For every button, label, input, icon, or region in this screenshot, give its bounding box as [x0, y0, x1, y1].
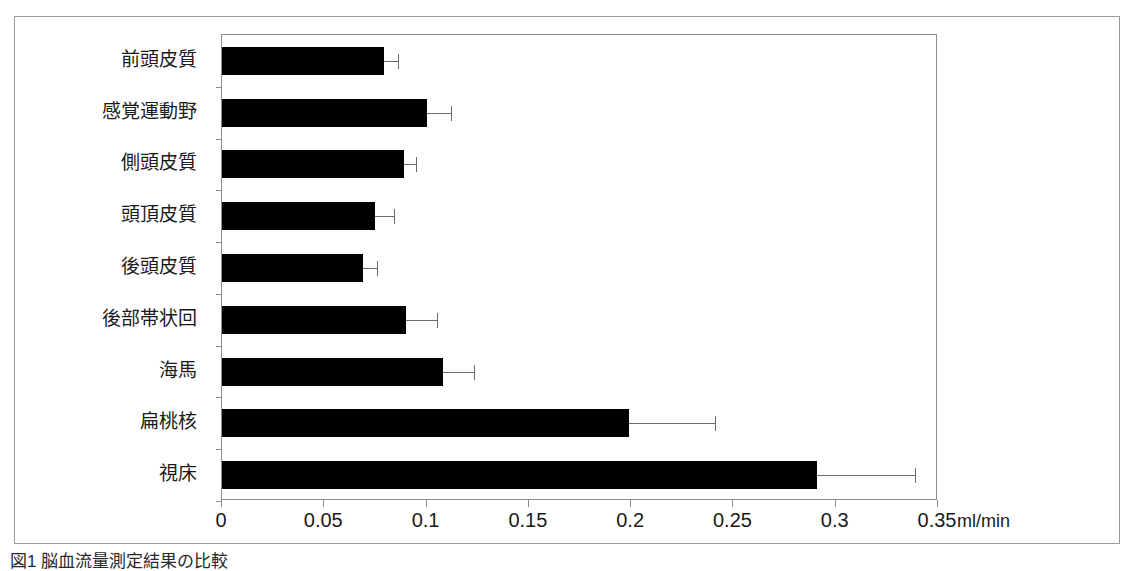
bar	[222, 99, 427, 127]
category-label: 側頭皮質	[121, 153, 197, 172]
plot-area	[221, 34, 937, 500]
x-axis-tick-label: 0.35	[918, 509, 957, 531]
bar	[222, 409, 629, 437]
category-axis-labels: 前頭皮質感覚運動野側頭皮質頭頂皮質後頭皮質後部帯状回海馬扁桃核視床	[0, 34, 211, 500]
y-axis-tick	[216, 449, 222, 450]
x-axis-tick-label: 0.2	[616, 509, 644, 531]
category-label: 視床	[159, 464, 197, 483]
bar	[222, 202, 375, 230]
y-axis-tick	[216, 242, 222, 243]
y-axis-tick	[216, 190, 222, 191]
error-bar-line	[629, 423, 715, 424]
error-bar-line	[404, 164, 416, 165]
category-label: 前頭皮質	[121, 50, 197, 69]
bar	[222, 461, 817, 489]
error-bar-line	[817, 475, 915, 476]
y-axis-tick	[216, 397, 222, 398]
x-axis-tick-label: 0.05	[304, 509, 343, 531]
x-axis-unit-label: ml/min	[957, 511, 1010, 531]
x-axis-tick	[835, 500, 836, 507]
category-label: 後部帯状回	[102, 309, 197, 328]
x-axis-tick-label: 0.1	[412, 509, 440, 531]
x-axis-tick-label: 0	[215, 509, 226, 531]
y-axis-tick	[216, 139, 222, 140]
y-axis-tick	[216, 87, 222, 88]
y-axis-tick	[216, 294, 222, 295]
x-axis-tick-label: 0.15	[508, 509, 547, 531]
x-axis-tick	[221, 500, 222, 507]
bar	[222, 254, 363, 282]
x-axis-ticks	[221, 500, 937, 508]
x-axis-tick-label: 0.3	[821, 509, 849, 531]
bar	[222, 47, 384, 75]
x-axis-tick	[323, 500, 324, 507]
bar	[222, 358, 443, 386]
error-bar-cap	[416, 157, 417, 172]
error-bar-cap	[915, 468, 916, 483]
error-bar-line	[427, 113, 452, 114]
x-axis-tick	[732, 500, 733, 507]
figure-page: 前頭皮質感覚運動野側頭皮質頭頂皮質後頭皮質後部帯状回海馬扁桃核視床 00.050…	[0, 0, 1134, 571]
bar	[222, 306, 406, 334]
x-axis-tick	[937, 500, 938, 507]
x-axis-tick	[426, 500, 427, 507]
bar	[222, 150, 404, 178]
error-bar-line	[375, 216, 393, 217]
error-bar-cap	[394, 209, 395, 224]
category-label: 海馬	[159, 361, 197, 380]
error-bar-cap	[451, 106, 452, 121]
figure-caption: 図1 脳血流量測定結果の比較	[10, 552, 1110, 571]
category-label: 扁桃核	[140, 412, 197, 431]
x-axis-tick	[630, 500, 631, 507]
bars-layer	[222, 35, 936, 499]
error-bar-line	[363, 268, 377, 269]
category-label: 頭頂皮質	[121, 205, 197, 224]
error-bar-line	[384, 61, 398, 62]
category-label: 後頭皮質	[121, 257, 197, 276]
x-axis-tick-label: 0.25	[713, 509, 752, 531]
error-bar-line	[443, 372, 474, 373]
error-bar-line	[406, 320, 437, 321]
error-bar-cap	[377, 261, 378, 276]
category-label: 感覚運動野	[102, 102, 197, 121]
error-bar-cap	[398, 54, 399, 69]
error-bar-cap	[715, 416, 716, 431]
x-axis-tick	[528, 500, 529, 507]
error-bar-cap	[474, 365, 475, 380]
y-axis-tick	[216, 346, 222, 347]
error-bar-cap	[437, 313, 438, 328]
